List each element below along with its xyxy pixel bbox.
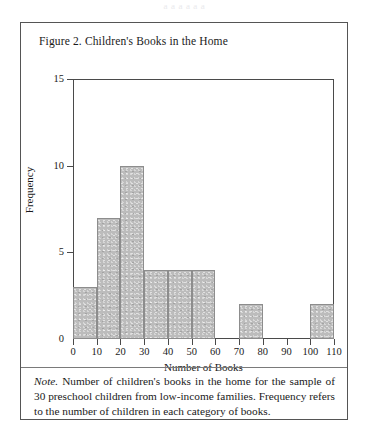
x-axis-tick-label: 90: [281, 347, 292, 358]
x-axis-tick: [287, 339, 288, 345]
y-axis-tick-label: 15: [54, 74, 65, 85]
x-axis-tick: [263, 339, 264, 345]
x-axis-tick-label: 110: [326, 347, 341, 358]
histogram-bar: [168, 270, 192, 339]
histogram-bar: [310, 304, 334, 339]
y-axis-tick: [67, 252, 73, 253]
x-axis-tick-label: 20: [115, 347, 126, 358]
figure-note: Note. Number of children's books in the …: [34, 374, 335, 420]
x-axis-tick: [334, 339, 335, 345]
x-axis-tick: [73, 339, 74, 345]
x-axis-tick-label: 80: [258, 347, 269, 358]
x-axis-tick-label: 70: [234, 347, 245, 358]
y-axis-tick: [67, 79, 73, 80]
x-axis-tick-label: 30: [139, 347, 150, 358]
y-axis-title: Frequency: [23, 167, 35, 213]
y-axis-tick: [67, 166, 73, 167]
histogram-bar: [73, 287, 97, 339]
x-axis-tick-label: 0: [70, 347, 75, 358]
x-axis-tick-label: 50: [186, 347, 197, 358]
y-axis-tick-label: 5: [59, 247, 64, 258]
x-axis-tick: [144, 339, 145, 345]
x-axis-tick: [239, 339, 240, 345]
x-axis-tick-label: 40: [163, 347, 174, 358]
x-axis-tick-label: 60: [210, 347, 221, 358]
note-text: Number of children's books in the home f…: [34, 375, 335, 417]
x-axis-tick: [168, 339, 169, 345]
histogram-bar: [192, 270, 216, 339]
figure-title: Figure 2. Children's Books in the Home: [39, 35, 228, 47]
x-axis-tick: [215, 339, 216, 345]
histogram-bar: [144, 270, 168, 339]
note-label: Note.: [34, 375, 58, 387]
x-axis-tick: [192, 339, 193, 345]
x-axis-tick: [120, 339, 121, 345]
histogram-plot: 051015 0102030405060708090100110: [73, 79, 334, 339]
x-axis-tick: [310, 339, 311, 345]
histogram-bar: [97, 218, 121, 339]
figure-container: Figure 2. Children's Books in the Home F…: [20, 22, 348, 420]
histogram-bar: [239, 304, 263, 339]
x-axis-tick-label: 10: [91, 347, 102, 358]
histogram-bar: [120, 166, 144, 339]
y-axis-tick-label: 0: [59, 334, 64, 345]
page-header-artifact: a a a a a a: [0, 0, 369, 12]
y-axis-tick-label: 10: [54, 160, 65, 171]
x-axis-tick-label: 100: [302, 347, 318, 358]
x-axis-tick: [97, 339, 98, 345]
note-divider: [21, 367, 347, 368]
